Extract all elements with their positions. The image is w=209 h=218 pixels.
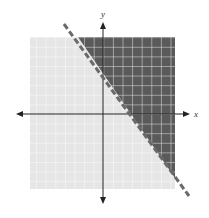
y-axis-down-arrow-icon [100, 197, 106, 204]
x-axis-left-arrow-icon [16, 111, 23, 117]
x-axis-label: x [193, 109, 198, 119]
x-axis-right-arrow-icon [183, 111, 190, 117]
y-axis-up-arrow-icon [100, 22, 106, 29]
inequality-graph: x y [0, 0, 209, 218]
y-axis-label: y [100, 9, 105, 19]
